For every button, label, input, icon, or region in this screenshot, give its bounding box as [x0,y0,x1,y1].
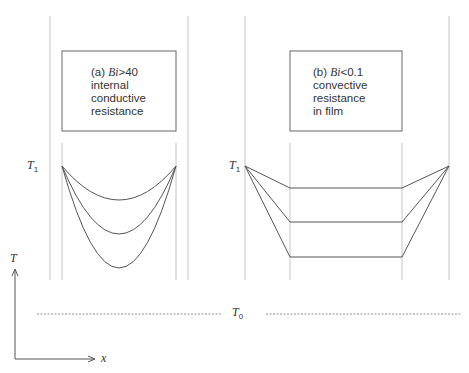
y-axis-label: T [10,251,17,266]
panel-a [50,16,188,280]
panel-a-profile-curve-3 [62,166,176,268]
panel-a-line4: resistance [91,105,146,118]
panel-b-line3: resistance [313,92,367,105]
panel-a-line2: internal [91,79,146,92]
panel-a-line3: conductive [91,92,146,105]
panel-a-condition: (a) Bi>40 [91,66,146,79]
panel-b-line4: in film [313,105,367,118]
x-axis-label: x [101,351,106,366]
panel-b-profile-2 [245,166,449,222]
panel-a-caption: (a) Bi>40 internal conductive resistance [91,66,146,118]
panel-a-profile-curve-1 [62,166,176,200]
panel-b-t1-label: T1 [229,158,240,174]
panel-b-condition: (b) Bi<0.1 [313,66,367,79]
axes [12,269,95,362]
panel-b-line2: convective [313,79,367,92]
panel-a-t1-label: T1 [27,158,38,174]
panel-b-profile-3 [245,166,449,257]
reference-t0-label: T0 [232,305,243,321]
panel-b-caption: (b) Bi<0.1 convective resistance in film [313,66,367,118]
panel-b-profile-1 [245,166,449,188]
panel-b [245,16,449,280]
